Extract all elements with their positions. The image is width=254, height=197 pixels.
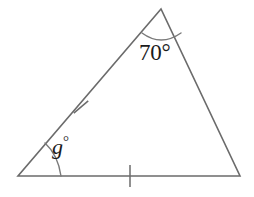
triangle-figure xyxy=(0,0,254,197)
unknown-angle-variable: g xyxy=(52,134,63,159)
geometry-diagram-canvas: 70° g° xyxy=(0,0,254,197)
apex-angle-label: 70° xyxy=(139,41,171,64)
unknown-angle-label: g° xyxy=(52,136,69,158)
degree-symbol: ° xyxy=(63,133,69,149)
